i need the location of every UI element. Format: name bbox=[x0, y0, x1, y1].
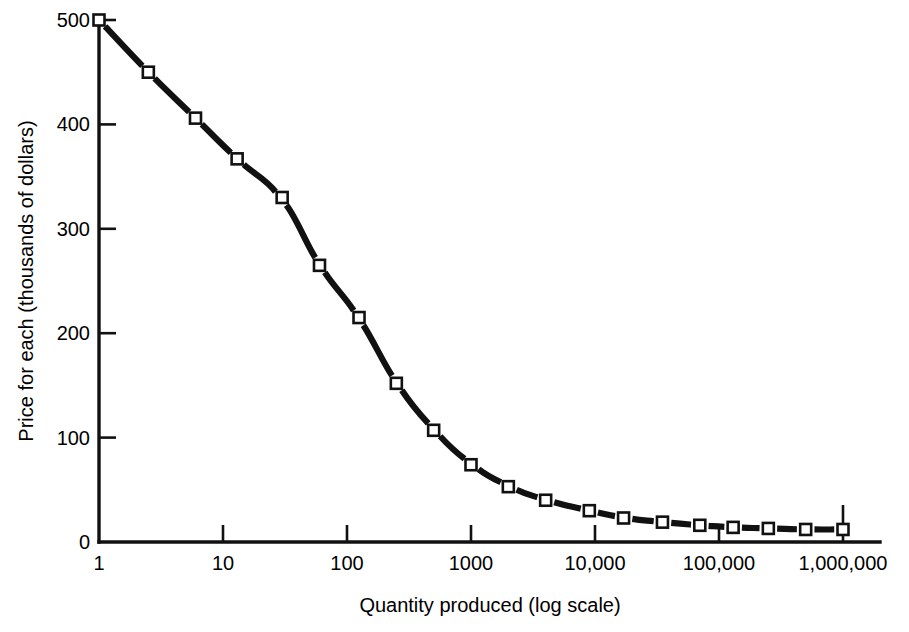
data-point-marker bbox=[728, 522, 739, 533]
y-axis-ticks bbox=[99, 20, 116, 438]
data-point-marker bbox=[391, 378, 402, 389]
data-point-marker bbox=[94, 15, 105, 26]
x-tick-label-10: 10 bbox=[212, 552, 234, 574]
data-point-marker bbox=[618, 512, 629, 523]
data-point-marker bbox=[428, 425, 439, 436]
data-point-marker bbox=[540, 495, 551, 506]
data-point-marker bbox=[466, 459, 477, 470]
x-axis-title: Quantity produced (log scale) bbox=[359, 594, 620, 616]
data-point-marker bbox=[584, 505, 595, 516]
x-tick-label-1: 1 bbox=[93, 552, 104, 574]
data-point-marker bbox=[763, 523, 774, 534]
y-tick-label-500: 500 bbox=[57, 9, 90, 31]
series-markers-price-for-each bbox=[94, 15, 849, 535]
data-series-group bbox=[94, 15, 849, 535]
data-point-marker bbox=[143, 67, 154, 78]
y-tick-label-0: 0 bbox=[79, 531, 90, 553]
data-point-marker bbox=[657, 517, 668, 528]
x-tick-label-1000000: 1,000,000 bbox=[799, 552, 888, 574]
price-quantity-line-chart: 0100200300400500 110100100010,000100,000… bbox=[0, 0, 909, 632]
data-point-marker bbox=[354, 312, 365, 323]
data-point-marker bbox=[190, 113, 201, 124]
x-tick-label-1000: 1000 bbox=[449, 552, 494, 574]
data-point-marker bbox=[800, 524, 811, 535]
y-tick-label-100: 100 bbox=[57, 427, 90, 449]
x-tick-label-10000: 10,000 bbox=[564, 552, 625, 574]
y-tick-label-400: 400 bbox=[57, 113, 90, 135]
y-tick-label-300: 300 bbox=[57, 218, 90, 240]
y-axis-tick-labels: 0100200300400500 bbox=[57, 9, 90, 553]
data-point-marker bbox=[503, 481, 514, 492]
series-line-price-for-each bbox=[105, 26, 834, 529]
chart-figure: 0100200300400500 110100100010,000100,000… bbox=[0, 0, 909, 632]
data-point-marker bbox=[232, 153, 243, 164]
x-tick-label-100: 100 bbox=[330, 552, 363, 574]
data-point-marker bbox=[694, 520, 705, 531]
y-tick-label-200: 200 bbox=[57, 322, 90, 344]
x-axis-ticks bbox=[223, 505, 843, 542]
y-axis-title: Price for each (thousands of dollars) bbox=[15, 120, 37, 441]
x-axis-tick-labels: 110100100010,000100,0001,000,000 bbox=[93, 552, 887, 574]
x-tick-label-100000: 100,000 bbox=[683, 552, 755, 574]
data-point-marker bbox=[838, 524, 849, 535]
axes bbox=[99, 20, 880, 542]
data-point-marker bbox=[314, 260, 325, 271]
data-point-marker bbox=[277, 192, 288, 203]
